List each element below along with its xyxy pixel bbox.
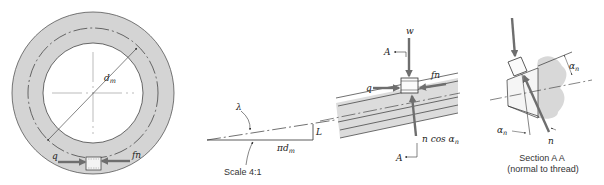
lambda-leader <box>241 111 250 130</box>
section-A-bottom-label: A <box>395 153 403 163</box>
lead-L-label: L <box>315 127 322 137</box>
w-label: w <box>406 26 414 36</box>
section-title: Section A A <box>519 153 565 163</box>
scale-leader <box>246 142 253 165</box>
q-label: q <box>52 151 58 161</box>
normal-n-label: n <box>548 136 554 146</box>
scale-label: Scale 4:1 <box>224 167 262 177</box>
screw-thread-force-diagram: dm q fn L πdm λ Scale 4:1 <box>0 0 604 185</box>
force-element-block <box>401 78 418 93</box>
thread-element-panel: w A q fn n cos αn A <box>320 26 460 163</box>
pi-dm-label: πdm <box>276 143 295 155</box>
q-label-2: q <box>366 83 372 93</box>
n-cos-alpha-label: n cos αn <box>422 134 459 146</box>
section-A-top-label: A <box>383 47 391 57</box>
end-view-panel: dm q fn <box>12 12 174 174</box>
lambda-label: λ <box>235 102 242 112</box>
section-load-arrow <box>512 18 515 56</box>
section-marker-bottom <box>405 143 417 157</box>
alpha-n-bottom-label: αn <box>497 125 507 137</box>
section-marker-top <box>394 52 406 57</box>
fn-label-2: fn <box>430 70 440 80</box>
section-aa-panel: αn n αn Section A A (normal to thread) <box>490 18 592 174</box>
section-subtitle: (normal to thread) <box>507 164 579 174</box>
fn-label: fn <box>131 150 141 160</box>
lead-triangle-panel: L πdm λ Scale 4:1 <box>207 102 335 177</box>
